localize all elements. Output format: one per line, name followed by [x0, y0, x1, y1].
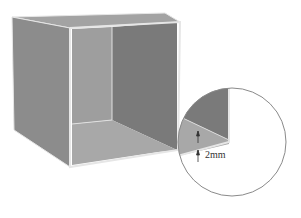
- cube-inner-left-wall: [72, 27, 112, 124]
- cube-left-face: [12, 17, 70, 167]
- thickness-label: 2mm: [205, 149, 226, 160]
- cube-diagram: [0, 0, 301, 218]
- magnifier-detail: [170, 68, 300, 210]
